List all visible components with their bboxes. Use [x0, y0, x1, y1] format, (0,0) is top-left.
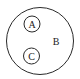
- set-c-label: C: [28, 51, 35, 62]
- set-a-label: A: [28, 19, 36, 30]
- set-b-circle: [7, 8, 74, 75]
- set-b-label: B: [53, 36, 60, 47]
- euler-diagram: A C B: [0, 0, 80, 79]
- diagram-canvas: A C B: [0, 0, 80, 79]
